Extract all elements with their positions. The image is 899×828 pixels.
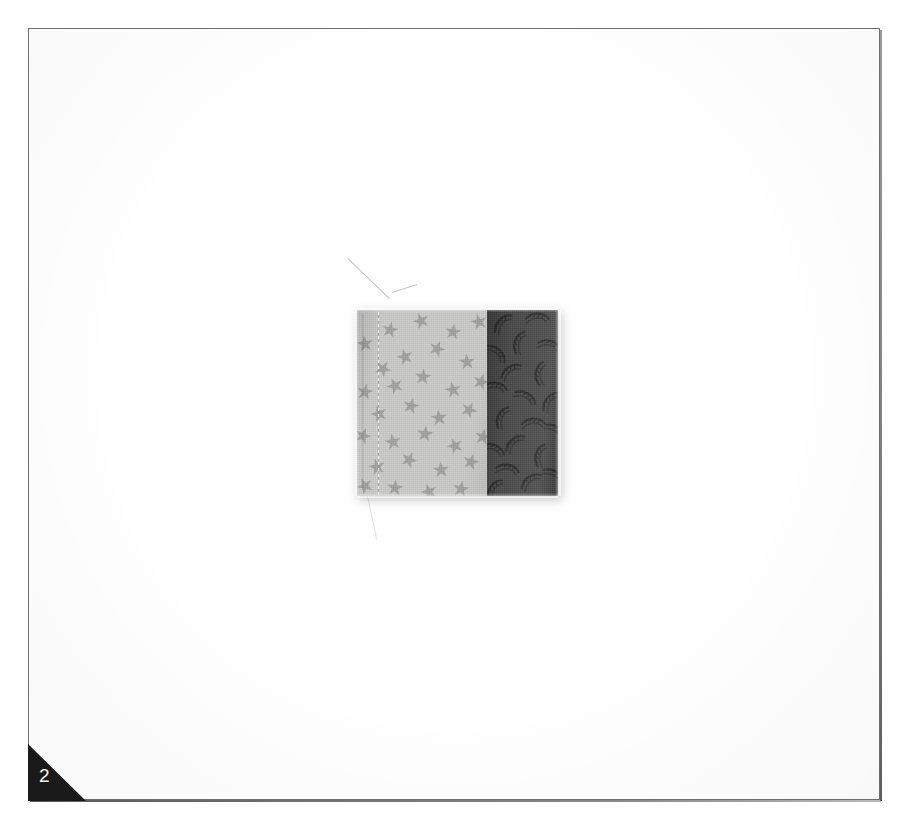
seam-fold-shadow: [362, 314, 364, 490]
page-number-corner-tab: 2: [28, 744, 86, 801]
corner-triangle-icon: [28, 744, 86, 801]
fabric-shading: [357, 310, 487, 496]
stitch-line: [378, 312, 379, 494]
card-border-right-rule: [880, 30, 882, 801]
fabric-panel-light-star-print: [357, 310, 487, 496]
fabric-swatch: [357, 310, 558, 496]
page-number-label: 2: [39, 766, 50, 785]
fabric-panel-dark-crescent-print: [487, 310, 558, 496]
card-border-bottom-rule: [30, 800, 881, 802]
fabric-shading: [487, 310, 558, 496]
scanned-page: 2: [0, 0, 899, 828]
